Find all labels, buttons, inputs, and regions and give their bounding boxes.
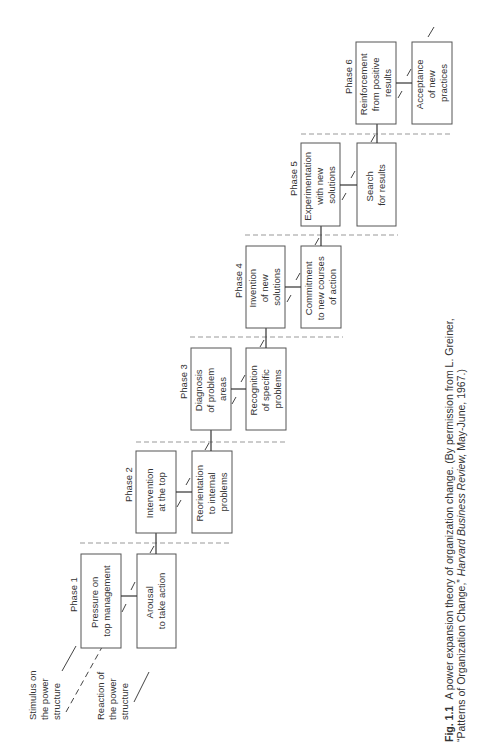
phase-label: Phase 2 bbox=[123, 467, 134, 502]
stimulus-text: Intervention at the top bbox=[144, 466, 167, 518]
reaction-text: Recognition of specific problems bbox=[248, 363, 283, 416]
tick-mark bbox=[260, 340, 264, 347]
tick-mark bbox=[351, 171, 355, 178]
legend: Stimulus on the power structure Reaction… bbox=[27, 640, 149, 720]
stimulus-text: Pressure on top management bbox=[89, 565, 112, 637]
tick-mark bbox=[205, 443, 209, 450]
tick-mark bbox=[287, 295, 291, 302]
tick-mark bbox=[398, 91, 402, 98]
tick-mark bbox=[407, 69, 411, 76]
tick-mark bbox=[342, 193, 346, 200]
tick-mark bbox=[150, 546, 154, 553]
tick-mark bbox=[122, 604, 126, 612]
tick-mark bbox=[177, 500, 181, 507]
power-expansion-diagram: Stimulus on the power structure Reaction… bbox=[0, 0, 481, 748]
tick-mark bbox=[371, 135, 375, 142]
phase-6: Phase 6 Reinforcement from positive resu… bbox=[343, 27, 452, 124]
phase-5: Phase 5 Experimentation with new solutio… bbox=[288, 124, 396, 226]
tick-mark bbox=[186, 478, 190, 485]
legend-stimulus-label: Stimulus on the power structure bbox=[27, 668, 62, 720]
tick-mark bbox=[241, 375, 245, 382]
tick-mark bbox=[232, 397, 236, 404]
tick-mark bbox=[296, 273, 300, 280]
legend-reaction-line bbox=[134, 672, 149, 702]
phase-label: Phase 3 bbox=[178, 364, 189, 399]
tick-mark bbox=[131, 582, 135, 590]
figure-number: Fig. 1.1 bbox=[443, 706, 455, 742]
legend-reaction-label: Reaction of the power structure bbox=[95, 669, 130, 720]
tick-mark bbox=[315, 238, 319, 245]
phase-4: Phase 4 Invention of new solutions Commi… bbox=[233, 226, 341, 328]
caption-journal: Harvard Business Review, bbox=[455, 454, 467, 577]
reaction-text: Search for results bbox=[364, 164, 387, 206]
phase-label: Phase 4 bbox=[233, 263, 244, 298]
phase-3: Phase 3 Diagnosis of problem areas Recog… bbox=[178, 328, 286, 430]
caption-line-2-prefix: “Patterns of Organization Change,” bbox=[455, 576, 467, 742]
phase-label: Phase 5 bbox=[288, 161, 299, 196]
phase-label: Phase 1 bbox=[68, 577, 79, 612]
phase-label: Phase 6 bbox=[343, 59, 354, 94]
legend-stimulus-line bbox=[62, 646, 76, 671]
figure-caption: Fig. 1.1 A power expansion theory of org… bbox=[443, 315, 467, 742]
stimulus-text: Invention of new solutions bbox=[247, 266, 282, 307]
caption-line-1: A power expansion theory of organization… bbox=[443, 318, 455, 699]
phase-1: Phase 1 Pressure on top management Arous… bbox=[68, 533, 176, 648]
tick-mark bbox=[428, 27, 434, 37]
caption-line-2-suffix: May-June, 1967.) bbox=[455, 369, 467, 451]
phase-2: Phase 2 Intervention at the top Reorient… bbox=[123, 430, 232, 533]
